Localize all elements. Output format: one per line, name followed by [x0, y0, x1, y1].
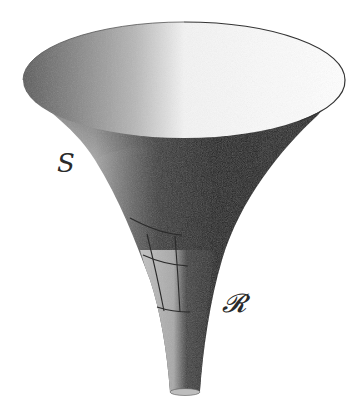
- surface-label-s: S: [57, 150, 75, 176]
- pseudosphere-diagram: [0, 0, 361, 412]
- horn-tip: [170, 389, 200, 396]
- horn-mouth: [23, 22, 345, 138]
- region-label-r: 𝓡: [222, 290, 246, 316]
